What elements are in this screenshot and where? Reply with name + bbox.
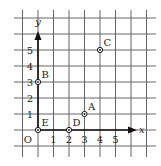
x-tick-label: 4	[97, 134, 103, 145]
x-tick-label: 2	[66, 134, 72, 145]
y-tick-label: 1	[27, 109, 33, 120]
point-label: B	[42, 69, 49, 80]
x-axis-label: x	[139, 124, 145, 135]
y-tick-label: 4	[27, 61, 33, 72]
x-axis-arrow-icon	[128, 127, 137, 134]
point-label: D	[73, 117, 81, 128]
x-tick-label: 1	[50, 134, 56, 145]
x-tick-label: 5	[112, 134, 118, 145]
point-center-dot-icon	[99, 49, 101, 51]
coordinate-grid-diagram: 1234512345Oxy ABCDE	[0, 0, 161, 166]
point-label: A	[87, 101, 96, 112]
point-center-dot-icon	[37, 129, 39, 131]
point-center-dot-icon	[68, 129, 70, 131]
y-tick-label: 5	[27, 45, 33, 56]
y-tick-label: 3	[27, 77, 33, 88]
x-tick-label: 3	[81, 134, 87, 145]
y-axis-arrow-icon	[35, 31, 42, 40]
point-label: C	[104, 37, 112, 48]
y-tick-label: 2	[27, 93, 33, 104]
point-label: E	[42, 117, 49, 128]
point-center-dot-icon	[84, 113, 86, 115]
origin-label: O	[24, 134, 32, 145]
y-axis-label: y	[34, 16, 41, 27]
point-center-dot-icon	[37, 81, 39, 83]
